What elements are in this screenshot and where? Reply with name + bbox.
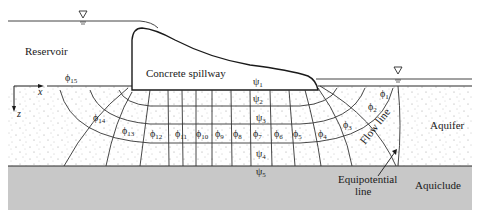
aquifer-label: Aquifer <box>430 119 465 131</box>
aquifer-region <box>8 86 472 166</box>
aquiclude-label: Aquiclude <box>415 179 461 191</box>
water-table-symbol-downstream <box>394 67 402 82</box>
aquiclude-region <box>8 166 472 210</box>
flow-net-diagram: x z Reservoir Concrete spillway Aquifer … <box>0 0 483 218</box>
concrete-spillway <box>132 28 318 90</box>
water-table-symbol-reservoir <box>79 11 87 24</box>
equipotential-label-1: Equipotential <box>338 173 397 185</box>
axis-z-label: z <box>16 108 21 119</box>
reservoir-label: Reservoir <box>25 45 68 57</box>
svg-text:ϕ15: ϕ15 <box>65 72 78 85</box>
spillway-label: Concrete spillway <box>146 67 226 79</box>
axis-x-label: x <box>37 86 43 97</box>
equipotential-label-2: line <box>355 185 372 197</box>
